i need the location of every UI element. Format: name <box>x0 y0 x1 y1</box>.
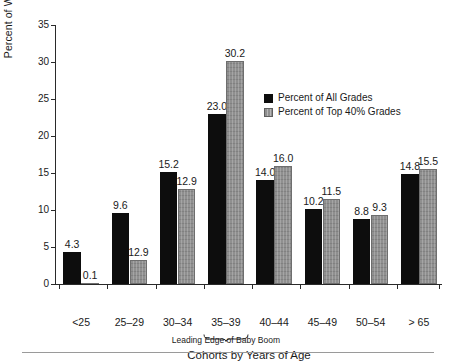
bar-value-label: 10.2 <box>303 196 323 207</box>
bar-value-label: 9.6 <box>113 200 128 211</box>
x-tick-label: 30–34 <box>163 317 192 328</box>
bar <box>226 61 244 284</box>
y-tick <box>51 99 56 100</box>
y-tick <box>51 136 56 137</box>
bar <box>305 209 323 284</box>
x-tick <box>349 284 350 289</box>
x-axis-line <box>55 284 442 285</box>
x-tick <box>397 284 398 289</box>
x-tick-label: 45–49 <box>308 317 337 328</box>
footer-rule <box>22 352 434 353</box>
bar <box>112 213 130 284</box>
legend-item: Percent of Top 40% Grades <box>264 106 401 118</box>
y-tick-label: 5 <box>43 242 49 252</box>
x-tick <box>59 284 60 289</box>
bar-value-label: 12.9 <box>128 247 148 258</box>
bar-value-label: 11.5 <box>322 186 342 197</box>
brace-annotation-label: Leading Edge of Baby Boom <box>172 336 280 345</box>
bar <box>160 172 178 284</box>
bar <box>63 252 81 284</box>
x-tick-label: 25–29 <box>115 317 144 328</box>
legend: Percent of All Grades Percent of Top 40%… <box>264 92 401 120</box>
legend-item: Percent of All Grades <box>264 92 401 104</box>
bar <box>353 219 371 284</box>
bar-value-label: 0.1 <box>83 270 98 281</box>
y-tick <box>51 25 56 26</box>
bar-value-label: 12.9 <box>176 176 196 187</box>
y-tick <box>51 210 56 211</box>
legend-swatch-all-grades <box>264 94 273 103</box>
bar <box>208 114 226 284</box>
bar <box>371 215 389 284</box>
bar-value-label: 15.2 <box>158 159 178 170</box>
bar-value-label: 30.2 <box>225 48 245 59</box>
bar <box>256 180 274 284</box>
x-tick <box>439 284 440 289</box>
x-tick <box>252 284 253 289</box>
bar <box>419 169 437 284</box>
y-tick-label: 20 <box>38 131 49 141</box>
legend-label-top40-grades: Percent of Top 40% Grades <box>278 107 401 117</box>
x-tick <box>300 284 301 289</box>
x-tick-label: 35–39 <box>211 317 240 328</box>
y-tick-label: 35 <box>38 20 49 30</box>
y-axis-line <box>55 25 56 285</box>
bar <box>178 189 196 284</box>
y-tick-label: 25 <box>38 94 49 104</box>
bar-value-label: 4.3 <box>65 239 80 250</box>
bar-value-label: 23.0 <box>207 101 227 112</box>
y-axis-title: Percent of Workforce <box>2 0 16 78</box>
y-tick-label: 0 <box>43 279 49 289</box>
plot-area: 05101520253035 4.30.19.612.915.212.923.0… <box>56 25 442 284</box>
x-tick-label: > 65 <box>409 317 430 328</box>
y-tick <box>51 284 56 285</box>
bar-value-label: 15.5 <box>418 156 438 167</box>
y-tick <box>51 247 56 248</box>
bar <box>81 283 99 284</box>
y-tick <box>51 173 56 174</box>
bar-value-label: 14.0 <box>255 167 275 178</box>
y-tick-label: 30 <box>38 57 49 67</box>
bar-value-label: 8.8 <box>354 206 369 217</box>
x-tick <box>204 284 205 289</box>
bar <box>274 166 292 284</box>
x-tick <box>107 284 108 289</box>
y-tick-label: 10 <box>38 205 49 215</box>
y-tick <box>51 62 56 63</box>
bar <box>401 174 419 284</box>
bar-value-label: 9.3 <box>372 202 387 213</box>
legend-swatch-top40-grades <box>264 108 273 117</box>
legend-label-all-grades: Percent of All Grades <box>278 93 373 103</box>
x-tick-label: 40–44 <box>260 317 289 328</box>
bar <box>130 260 148 284</box>
y-tick-label: 15 <box>38 168 49 178</box>
x-tick-label: 50–54 <box>356 317 385 328</box>
bar <box>323 199 341 284</box>
x-tick <box>156 284 157 289</box>
x-tick-label: <25 <box>72 317 90 328</box>
bar-value-label: 16.0 <box>273 153 293 164</box>
